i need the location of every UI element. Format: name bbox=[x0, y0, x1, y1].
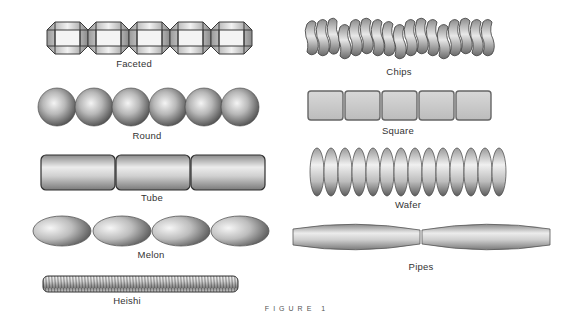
pipes-label: Pipes bbox=[409, 261, 434, 272]
round-label: Round bbox=[133, 130, 162, 141]
melon-label: Melon bbox=[138, 249, 165, 260]
square-beads bbox=[308, 91, 491, 120]
figure-caption: FIGURE 1 bbox=[265, 305, 329, 312]
heishi-beads bbox=[43, 276, 238, 292]
melon-beads bbox=[33, 216, 269, 246]
tube-label: Tube bbox=[141, 192, 163, 203]
chips-label: Chips bbox=[386, 66, 411, 77]
tube-beads bbox=[41, 155, 265, 190]
faceted-label: Faceted bbox=[116, 58, 152, 69]
chip-beads bbox=[305, 18, 494, 59]
bead-shapes-figure: Faceted Chips Round Square Tube Wafer Me… bbox=[0, 0, 578, 317]
faceted-beads bbox=[47, 22, 252, 54]
bead-illustrations bbox=[0, 0, 578, 317]
heishi-label: Heishi bbox=[113, 295, 141, 306]
square-label: Square bbox=[382, 125, 414, 136]
round-beads bbox=[38, 88, 259, 126]
wafer-beads bbox=[310, 148, 506, 196]
pipe-beads bbox=[293, 224, 550, 250]
wafer-label: Wafer bbox=[395, 199, 421, 210]
